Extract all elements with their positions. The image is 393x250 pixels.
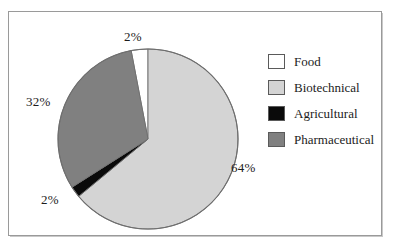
- slice-label-agricultural: 2%: [41, 192, 59, 208]
- slice-label-food: 2%: [124, 29, 142, 45]
- legend-item-biotechnical: Biotechnical: [268, 76, 388, 99]
- legend-item-pharmaceutical: Pharmaceutical: [268, 128, 388, 151]
- slice-label-biotechnical: 64%: [231, 160, 255, 176]
- legend-item-agricultural: Agricultural: [268, 102, 388, 125]
- legend-item-food: Food: [268, 50, 388, 73]
- legend-label-agricultural: Agricultural: [294, 106, 358, 121]
- figure-frame: 2% 32% 2% 64% Food Biotechnical Agricult…: [8, 11, 382, 236]
- legend-label-biotechnical: Biotechnical: [294, 80, 360, 95]
- legend-label-food: Food: [294, 54, 321, 69]
- slice-label-pharmaceutical: 32%: [26, 94, 50, 110]
- chart-legend: Food Biotechnical Agricultural Pharmaceu…: [268, 50, 388, 154]
- pie-slices: [58, 49, 238, 229]
- legend-swatch-biotechnical: [268, 80, 285, 95]
- pie-chart-figure: 2% 32% 2% 64% Food Biotechnical Agricult…: [0, 0, 393, 250]
- legend-swatch-food: [268, 54, 285, 69]
- legend-label-pharmaceutical: Pharmaceutical: [294, 132, 374, 147]
- legend-swatch-agricultural: [268, 106, 285, 121]
- pie-graphic: [55, 46, 241, 232]
- legend-swatch-pharmaceutical: [268, 132, 285, 147]
- pie-svg: [55, 46, 241, 232]
